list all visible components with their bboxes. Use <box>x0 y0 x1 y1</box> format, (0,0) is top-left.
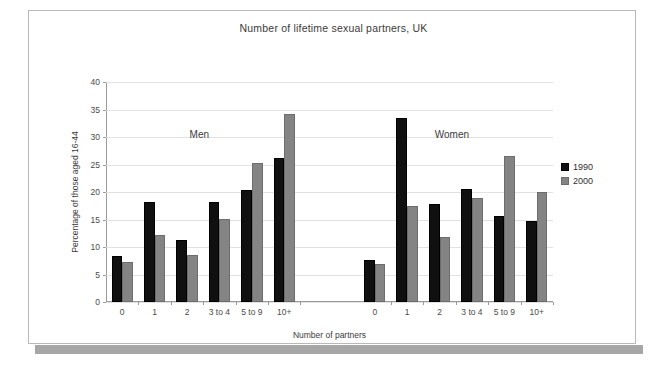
y-tick-mark <box>103 82 106 83</box>
bar-men-2000-3-to-4 <box>219 219 230 302</box>
y-tick-mark <box>103 165 106 166</box>
bar-women-1990-3-to-4 <box>461 189 472 302</box>
bar-women-2000-1 <box>407 206 418 302</box>
y-axis-title: Percentage of those aged 16-44 <box>68 82 82 302</box>
group-label-women: Women <box>435 129 469 140</box>
x-tick-mark <box>268 302 269 305</box>
gridline <box>106 247 553 248</box>
bar-women-1990-10+ <box>526 221 537 302</box>
gridline <box>106 165 553 166</box>
bar-women-2000-5-to-9 <box>504 156 515 302</box>
bar-men-1990-1 <box>144 202 155 302</box>
x-tick-label: 2 <box>437 307 442 317</box>
bar-women-2000-2 <box>440 237 451 302</box>
bar-women-2000-3-to-4 <box>472 198 483 303</box>
y-tick-mark <box>103 275 106 276</box>
bar-women-2000-0 <box>375 264 386 302</box>
x-tick-label: 2 <box>185 307 190 317</box>
legend-label-2000: 2000 <box>573 176 593 186</box>
gridline <box>106 82 553 83</box>
bar-men-2000-0 <box>122 262 133 302</box>
y-tick-label: 10 <box>91 242 100 252</box>
y-tick-mark <box>103 247 106 248</box>
x-tick-mark <box>171 302 172 305</box>
y-tick-label: 15 <box>91 215 100 225</box>
gridline <box>106 110 553 111</box>
y-tick-label: 5 <box>95 270 100 280</box>
x-axis-title: Number of partners <box>106 330 553 340</box>
x-tick-label: 0 <box>120 307 125 317</box>
legend-item-2000: 2000 <box>561 174 593 188</box>
y-tick-label: 20 <box>91 187 100 197</box>
bar-women-1990-5-to-9 <box>494 216 505 302</box>
y-tick-mark <box>103 137 106 138</box>
x-tick-label: 5 to 9 <box>241 307 262 317</box>
x-tick-mark <box>203 302 204 305</box>
panel-shadow <box>35 345 643 354</box>
legend-swatch-1990 <box>561 163 569 171</box>
y-tick-label: 35 <box>91 105 100 115</box>
x-tick-label: 3 to 4 <box>209 307 230 317</box>
bar-men-1990-2 <box>176 240 187 302</box>
group-label-men: Men <box>190 129 209 140</box>
y-axis-title-label: Percentage of those aged 16-44 <box>70 131 80 252</box>
gridline <box>106 220 553 221</box>
gridline <box>106 137 553 138</box>
slide-canvas: Number of lifetime sexual partners, UK P… <box>0 0 667 389</box>
y-tick-mark <box>103 220 106 221</box>
bar-men-1990-3-to-4 <box>209 202 220 302</box>
x-tick-label: 0 <box>372 307 377 317</box>
bar-women-1990-0 <box>364 260 375 302</box>
bar-women-2000-10+ <box>537 192 548 302</box>
y-tick-mark <box>103 302 106 303</box>
bar-men-1990-5-to-9 <box>241 190 252 302</box>
bar-men-2000-10+ <box>284 114 295 302</box>
x-tick-label: 1 <box>405 307 410 317</box>
bar-men-2000-5-to-9 <box>252 163 263 302</box>
x-tick-mark <box>423 302 424 305</box>
x-tick-mark <box>138 302 139 305</box>
plot-area: 05101520253035400123 to 45 to 910+Men012… <box>106 82 553 302</box>
y-tick-label: 40 <box>91 77 100 87</box>
x-tick-label: 10+ <box>530 307 544 317</box>
x-tick-mark <box>553 302 554 305</box>
x-tick-mark <box>391 302 392 305</box>
chart-title: Number of lifetime sexual partners, UK <box>0 22 667 34</box>
bar-men-2000-1 <box>155 235 166 302</box>
y-tick-label: 30 <box>91 132 100 142</box>
legend-swatch-2000 <box>561 177 569 185</box>
x-tick-mark <box>236 302 237 305</box>
x-tick-label: 5 to 9 <box>494 307 515 317</box>
legend-item-1990: 1990 <box>561 160 593 174</box>
bar-men-1990-10+ <box>274 158 285 302</box>
x-tick-label: 1 <box>152 307 157 317</box>
x-tick-mark <box>300 302 301 305</box>
y-tick-label: 25 <box>91 160 100 170</box>
x-tick-label: 10+ <box>277 307 291 317</box>
bar-women-1990-1 <box>396 118 407 302</box>
bar-men-1990-0 <box>112 256 123 302</box>
x-tick-mark <box>521 302 522 305</box>
y-tick-mark <box>103 192 106 193</box>
chart-legend: 19902000 <box>561 160 593 188</box>
y-tick-label: 0 <box>95 297 100 307</box>
gridline <box>106 302 553 303</box>
legend-label-1990: 1990 <box>573 162 593 172</box>
x-tick-mark <box>488 302 489 305</box>
x-tick-label: 3 to 4 <box>461 307 482 317</box>
bar-women-1990-2 <box>429 204 440 302</box>
gridline <box>106 192 553 193</box>
y-tick-mark <box>103 110 106 111</box>
bar-men-2000-2 <box>187 255 198 302</box>
gridline <box>106 275 553 276</box>
x-tick-mark <box>456 302 457 305</box>
